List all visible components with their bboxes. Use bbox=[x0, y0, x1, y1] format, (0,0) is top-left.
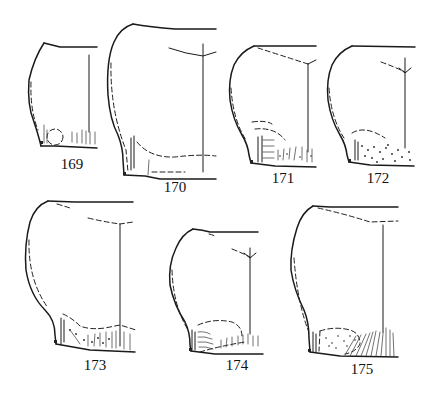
figure-label-175: 175 bbox=[351, 361, 374, 378]
figure-label-169: 169 bbox=[61, 156, 84, 173]
figure-label-173: 173 bbox=[84, 357, 107, 374]
figure-label-171: 171 bbox=[272, 170, 295, 187]
figure-174-drawing bbox=[170, 229, 263, 354]
figure-173-drawing bbox=[26, 201, 137, 352]
figure-169-drawing bbox=[29, 43, 97, 148]
figure-172-drawing bbox=[328, 46, 416, 166]
figure-label-172: 172 bbox=[367, 170, 390, 187]
figure-label-170: 170 bbox=[164, 179, 187, 196]
figure-170-drawing bbox=[108, 24, 216, 179]
figure-175-drawing bbox=[291, 206, 398, 357]
figure-171-drawing bbox=[230, 46, 317, 167]
figure-plate bbox=[0, 0, 432, 400]
figure-label-174: 174 bbox=[226, 357, 249, 374]
